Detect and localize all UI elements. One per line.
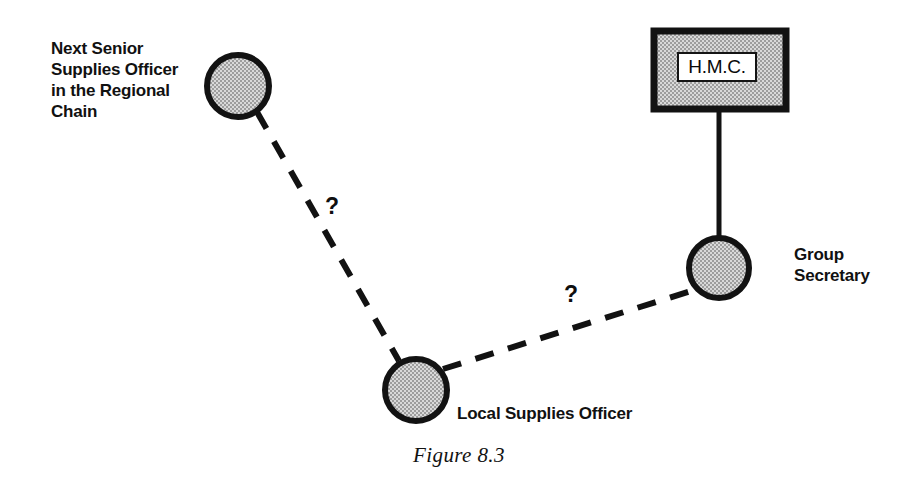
figure-caption: Figure 8.3 [0, 443, 918, 468]
edge-label-question-mark-lower: ? [564, 281, 578, 308]
edge-next-senior-to-local-supplies [257, 112, 399, 361]
node-next-senior-supplies-officer [207, 55, 269, 117]
figure-container: H.M.C. Next Senior Supplies Officer in t… [0, 0, 918, 490]
node-group-secretary [689, 238, 749, 298]
label-next-senior-supplies-officer: Next Senior Supplies Officer in the Regi… [51, 38, 178, 122]
edge-label-question-mark-upper: ? [325, 193, 339, 220]
hmc-label-box: H.M.C. [677, 52, 757, 82]
label-local-supplies-officer: Local Supplies Officer [457, 403, 632, 424]
hmc-label-text: H.M.C. [688, 56, 745, 78]
node-local-supplies-officer [385, 359, 447, 421]
label-group-secretary: Group Secretary [794, 244, 870, 286]
